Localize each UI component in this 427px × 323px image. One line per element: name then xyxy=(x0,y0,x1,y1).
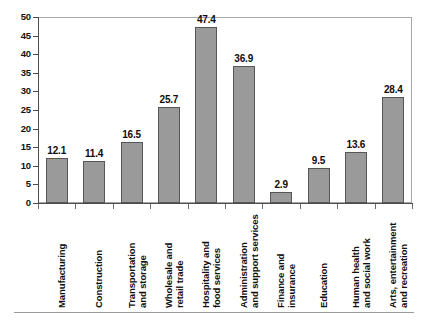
bar-value-label: 28.4 xyxy=(373,85,413,95)
y-axis-tick-label: 30 xyxy=(5,86,31,96)
x-axis-category-label: Human healthand social work xyxy=(351,212,372,308)
y-axis-labels: 05101520253035404550 xyxy=(0,0,31,323)
y-axis-tick-label: 10 xyxy=(5,161,31,171)
y-axis-tick xyxy=(33,203,38,204)
bar-value-label: 9.5 xyxy=(299,156,339,166)
y-axis-tick-label: 5 xyxy=(5,179,31,189)
y-axis-tick-label: 45 xyxy=(5,31,31,41)
y-axis-tick-label: 20 xyxy=(5,124,31,134)
bar xyxy=(233,66,255,203)
y-axis-tick xyxy=(33,110,38,111)
y-axis-tick xyxy=(33,147,38,148)
x-axis-category-label: Manufacturing xyxy=(57,212,68,308)
y-axis-tick-label: 15 xyxy=(5,142,31,152)
x-axis-tick xyxy=(75,204,76,209)
x-axis-tick xyxy=(375,204,376,209)
y-axis-tick xyxy=(33,91,38,92)
y-axis-tick xyxy=(33,36,38,37)
bar-value-label: 12.1 xyxy=(37,146,77,156)
y-axis-tick-label: 50 xyxy=(5,12,31,22)
y-axis-tick xyxy=(33,129,38,130)
x-axis-tick xyxy=(300,204,301,209)
bar-value-label: 2.9 xyxy=(261,180,301,190)
bar-value-label: 11.4 xyxy=(74,149,114,159)
x-axis-tick xyxy=(150,204,151,209)
bar xyxy=(382,97,404,203)
x-axis-category-label: Transportationand storage xyxy=(127,212,148,308)
x-axis-tick xyxy=(262,204,263,209)
bar xyxy=(121,142,143,203)
y-axis-tick-label: 25 xyxy=(5,105,31,115)
x-axis-category-label: Arts, entertainmentand recreation xyxy=(388,212,409,308)
bar xyxy=(46,158,68,203)
x-axis-category-label: Finance andinsurance xyxy=(276,212,297,308)
y-axis-tick-label: 40 xyxy=(5,49,31,59)
x-axis-tick xyxy=(113,204,114,209)
x-axis-tick xyxy=(38,204,39,209)
y-axis-tick-label: 35 xyxy=(5,68,31,78)
x-axis-category-label: Administrationand support services xyxy=(239,212,260,308)
bar xyxy=(158,107,180,203)
bar-value-label: 47.4 xyxy=(186,15,226,25)
x-axis-tick xyxy=(225,204,226,209)
bar-chart: 05101520253035404550 12.111.416.525.747.… xyxy=(0,0,427,323)
bottom-divider xyxy=(14,312,414,313)
y-axis-tick xyxy=(33,17,38,18)
x-axis-tick xyxy=(188,204,189,209)
y-axis-tick xyxy=(33,54,38,55)
bar xyxy=(83,161,105,203)
x-axis-category-label: Construction xyxy=(94,212,105,308)
x-axis-category-label: Education xyxy=(319,212,330,308)
x-axis-category-label: Hospitality andfood services xyxy=(201,212,222,308)
bar-value-label: 13.6 xyxy=(336,140,376,150)
x-axis-tick xyxy=(337,204,338,209)
y-axis-tick-label: 0 xyxy=(5,198,31,208)
bar xyxy=(308,168,330,203)
x-axis-category-label: Wholesale andretail trade xyxy=(164,212,185,308)
bar xyxy=(195,27,217,203)
bar-value-label: 16.5 xyxy=(112,130,152,140)
y-axis-tick xyxy=(33,73,38,74)
bar-value-label: 25.7 xyxy=(149,95,189,105)
y-axis-tick xyxy=(33,166,38,167)
bar xyxy=(270,192,292,203)
y-axis-line xyxy=(38,17,39,204)
bar-value-label: 36.9 xyxy=(224,54,264,64)
y-axis-tick xyxy=(33,184,38,185)
x-axis-tick xyxy=(412,204,413,209)
bar xyxy=(345,152,367,203)
